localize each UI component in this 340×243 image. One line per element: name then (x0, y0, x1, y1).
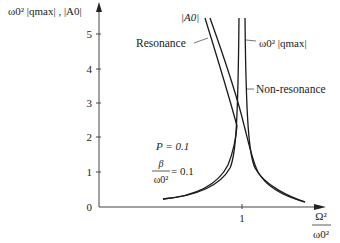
svg-text:2: 2 (87, 131, 93, 143)
svg-text:β: β (158, 158, 164, 169)
x-axis-label: Ω² ω0² (312, 210, 331, 240)
x-tick-label: 1 (239, 212, 245, 224)
A0-label: |A0| (181, 11, 199, 23)
svg-text:ω0²: ω0² (313, 228, 330, 240)
qmax-label: ω0² |qmax| (259, 37, 307, 49)
resonance-chart: 0 1 2 3 4 5 1 Ω² ω0² ω0² |qmax| , |A0| R… (0, 0, 340, 243)
svg-text:ω0²: ω0² (154, 174, 169, 185)
resonance-label: Resonance (136, 37, 186, 49)
y-axis-arrow-icon (96, 2, 102, 12)
non-resonance-label: Non-resonance (256, 83, 326, 95)
svg-text:= 0.1: = 0.1 (171, 165, 194, 177)
p-value-label: P = 0.1 (155, 140, 189, 152)
resonance-leader (194, 38, 208, 43)
beta-ratio-label: β ω0² = 0.1 (152, 158, 194, 185)
y-axis-label: ω0² |qmax| , |A0| (8, 5, 82, 17)
y-tick-labels: 0 1 2 3 4 5 (87, 28, 93, 213)
svg-text:Ω²: Ω² (315, 210, 327, 222)
svg-text:5: 5 (87, 28, 93, 40)
qmax-leader (246, 40, 256, 41)
svg-text:0: 0 (87, 201, 93, 213)
svg-text:3: 3 (87, 97, 93, 109)
svg-text:4: 4 (87, 63, 93, 75)
svg-text:1: 1 (87, 166, 93, 178)
